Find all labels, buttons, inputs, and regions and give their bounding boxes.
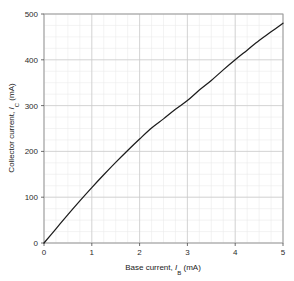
x-tick-label: 4: [233, 248, 238, 257]
y-tick-label: 0: [34, 239, 39, 248]
chart-figure: 012345 0100200300400500 Base current, IB…: [0, 0, 294, 281]
y-tick-label: 500: [25, 10, 39, 19]
x-tick-label: 1: [90, 248, 95, 257]
x-tick-label: 2: [137, 248, 142, 257]
x-tick-label: 0: [42, 248, 47, 257]
x-tick-label: 3: [185, 248, 190, 257]
x-tick-label: 5: [281, 248, 286, 257]
y-tick-label: 200: [25, 147, 39, 156]
grid-minor: [44, 14, 283, 243]
y-tick-label: 400: [25, 56, 39, 65]
y-tick-label: 300: [25, 102, 39, 111]
y-tick-label: 100: [25, 193, 39, 202]
